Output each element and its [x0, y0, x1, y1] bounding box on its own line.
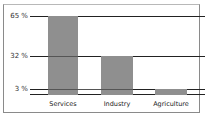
gridline-32-overlay	[48, 56, 78, 57]
x-label-agriculture: Agriculture	[146, 100, 196, 108]
x-label-services: Services	[38, 100, 88, 108]
y-tick-label-65: 65 %	[2, 12, 28, 20]
x-label-industry: Industry	[92, 100, 142, 108]
y-tick-label-3: 3 %	[2, 85, 28, 93]
bar-agriculture	[155, 89, 187, 95]
gridline-3-overlay	[48, 89, 133, 90]
y-tick-label-32: 32 %	[2, 52, 28, 60]
